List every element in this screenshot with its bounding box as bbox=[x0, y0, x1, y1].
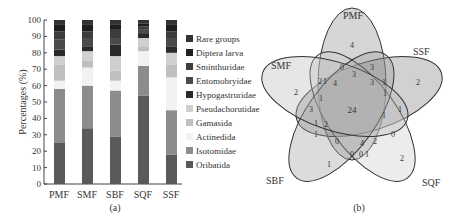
bar-segment bbox=[82, 46, 93, 51]
bar-segment bbox=[110, 81, 121, 91]
svg-text:1: 1 bbox=[323, 77, 327, 86]
legend-swatch bbox=[186, 91, 193, 98]
svg-text:1: 1 bbox=[382, 78, 386, 87]
svg-text:20: 20 bbox=[32, 146, 42, 156]
legend-label: Actinedida bbox=[196, 132, 236, 142]
svg-text:3: 3 bbox=[352, 70, 356, 79]
legend-swatch bbox=[186, 35, 193, 42]
figure: Percentages (%) 0 10 20 30 40 50 60 70 8… bbox=[0, 0, 455, 218]
svg-text:30: 30 bbox=[32, 130, 42, 140]
svg-text:1: 1 bbox=[327, 160, 331, 169]
svg-text:1: 1 bbox=[314, 119, 318, 128]
bar-segment bbox=[54, 40, 65, 50]
bar-segment bbox=[54, 31, 65, 39]
svg-text:0: 0 bbox=[391, 130, 395, 139]
svg-text:1: 1 bbox=[383, 89, 387, 98]
svg-text:SMF: SMF bbox=[271, 60, 291, 71]
legend-swatch bbox=[186, 105, 193, 112]
svg-text:SSF: SSF bbox=[163, 189, 180, 200]
bar-segment bbox=[138, 27, 149, 30]
svg-text:0: 0 bbox=[359, 150, 363, 159]
bar-segment bbox=[54, 56, 65, 64]
legend-label: Sminthuridae bbox=[196, 62, 245, 72]
bar-segment bbox=[110, 56, 121, 71]
legend: Rare groupsDiptera larvaSminthuridaeEnto… bbox=[186, 34, 259, 170]
bar-segment bbox=[54, 25, 65, 32]
legend-label: Oribatida bbox=[196, 160, 230, 170]
bar-segment bbox=[166, 38, 177, 46]
bar-segment bbox=[166, 31, 177, 38]
bar-segment bbox=[110, 71, 121, 81]
svg-text:3: 3 bbox=[370, 63, 374, 72]
bar-segment bbox=[54, 89, 65, 143]
legend-label: Hypogastruridae bbox=[196, 90, 256, 100]
legend-swatch bbox=[186, 49, 193, 56]
legend-label: Pseudachorutidae bbox=[196, 104, 259, 114]
svg-text:4: 4 bbox=[333, 79, 337, 88]
bar-segment bbox=[138, 20, 149, 23]
svg-text:1: 1 bbox=[382, 111, 386, 120]
legend-swatch bbox=[186, 63, 193, 70]
svg-text:10: 10 bbox=[32, 163, 42, 173]
bar-segment bbox=[110, 38, 121, 45]
bar-segment bbox=[82, 128, 93, 184]
bar-segment bbox=[110, 20, 121, 25]
legend-swatch bbox=[186, 147, 193, 154]
svg-text:4: 4 bbox=[360, 139, 364, 148]
legend-swatch bbox=[186, 133, 193, 140]
bar-segment bbox=[82, 25, 93, 32]
svg-text:2: 2 bbox=[294, 88, 298, 97]
bar-segment bbox=[110, 25, 121, 30]
svg-text:SSF: SSF bbox=[413, 46, 430, 57]
bar-segment bbox=[54, 50, 65, 57]
svg-text:1: 1 bbox=[319, 94, 323, 103]
svg-text:40: 40 bbox=[32, 113, 42, 123]
svg-text:SQF: SQF bbox=[422, 177, 441, 188]
bar-segment bbox=[54, 143, 65, 184]
svg-text:0: 0 bbox=[340, 63, 344, 72]
bar-segment bbox=[82, 51, 93, 61]
bar-segment bbox=[54, 64, 65, 80]
bar-segment bbox=[166, 64, 177, 77]
bar-segment bbox=[82, 20, 93, 25]
svg-text:60: 60 bbox=[32, 81, 42, 91]
svg-text:4: 4 bbox=[350, 41, 354, 50]
svg-text:24: 24 bbox=[348, 105, 358, 115]
svg-text:PMF: PMF bbox=[49, 189, 69, 200]
svg-text:1: 1 bbox=[398, 105, 402, 114]
svg-text:SBF: SBF bbox=[106, 189, 124, 200]
bar-segment bbox=[166, 46, 177, 53]
bar-segment bbox=[82, 68, 93, 86]
bar-segment bbox=[138, 23, 149, 26]
bar-segment bbox=[110, 136, 121, 184]
bar-segment bbox=[82, 38, 93, 46]
bar-segment bbox=[82, 61, 93, 68]
bar-segment bbox=[166, 53, 177, 64]
bar-segment bbox=[138, 30, 149, 33]
bar-segment bbox=[166, 77, 177, 110]
legend-label: Diptera larva bbox=[196, 48, 243, 58]
bar-segment bbox=[82, 86, 93, 129]
legend-label: Gamasida bbox=[196, 118, 232, 128]
bar-segment bbox=[166, 154, 177, 184]
y-axis-label: Percentages (%) bbox=[17, 69, 29, 134]
svg-text:2: 2 bbox=[318, 77, 322, 86]
legend-swatch bbox=[186, 77, 193, 84]
panel-b-caption: (b) bbox=[353, 202, 365, 214]
svg-text:1: 1 bbox=[314, 130, 318, 139]
bar-segment bbox=[138, 51, 149, 66]
legend-label: Rare groups bbox=[196, 34, 240, 44]
svg-text:0: 0 bbox=[335, 137, 339, 146]
x-tick-labels: PMF SMF SBF SQF SSF bbox=[49, 189, 180, 200]
bar-segment bbox=[110, 30, 121, 38]
bar-segment bbox=[166, 20, 177, 25]
legend-swatch bbox=[186, 119, 193, 126]
bar-segment bbox=[110, 45, 121, 56]
svg-text:80: 80 bbox=[32, 48, 42, 58]
bar-segment bbox=[82, 31, 93, 38]
svg-text:90: 90 bbox=[32, 31, 42, 41]
panel-a-caption: (a) bbox=[109, 202, 120, 214]
svg-text:SMF: SMF bbox=[77, 189, 97, 200]
svg-text:SBF: SBF bbox=[266, 175, 284, 186]
legend-label: Isotomidae bbox=[196, 146, 236, 156]
